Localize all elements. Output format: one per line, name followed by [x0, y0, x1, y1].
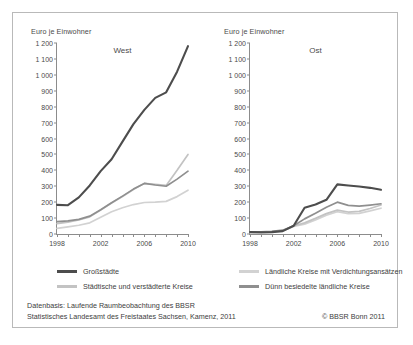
x-axis-tick-mark: [57, 234, 58, 237]
legend-item-grossstaedte: Großstädte: [57, 267, 119, 276]
x-axis-tick-mark: [101, 234, 102, 237]
y-axis-tick-label: 400: [41, 167, 53, 174]
y-axis-tick-label: 300: [234, 183, 246, 190]
legend-item-duenn-besiedelt: Dünn besiedelte ländliche Kreise: [239, 282, 370, 291]
y-axis-tick-label: 900: [41, 87, 53, 94]
x-axis-tick-mark: [90, 234, 91, 237]
y-axis-tick-label: 500: [234, 151, 246, 158]
data-series-line: [57, 154, 188, 223]
y-axis-tick-label: 800: [234, 103, 246, 110]
x-axis-tick-mark: [261, 234, 262, 237]
chart-panel-west: Euro je Einwohner West 01002003004005006…: [13, 13, 206, 263]
legend-item-staedtische: Städtische und verstädterte Kreise: [57, 282, 193, 291]
y-axis-tick-label: 600: [234, 135, 246, 142]
x-axis-tick-mark: [359, 234, 360, 237]
data-series-line: [250, 184, 381, 232]
x-axis-tick-label: 2010: [373, 240, 389, 247]
data-series-line: [57, 171, 188, 221]
x-axis-tick-mark: [79, 234, 80, 237]
y-axis-tick-label: 800: [41, 103, 53, 110]
y-axis-tick-label: 0: [242, 231, 246, 238]
source-line-2-text: Statistisches Landesamt des Freistaates …: [27, 312, 236, 321]
x-axis-tick-mark: [348, 234, 349, 237]
y-axis-tick-label: 600: [41, 135, 53, 142]
x-axis-tick-mark: [370, 234, 371, 237]
x-axis-tick-label: 2002: [93, 240, 109, 247]
x-axis-tick-mark: [305, 234, 306, 237]
source-note: Datenbasis: Laufende Raumbeobachtung des…: [27, 301, 385, 322]
y-axis-tick-label: 100: [234, 215, 246, 222]
y-axis-tick-label: 1 200: [228, 40, 246, 47]
y-axis-tick-label: 200: [234, 199, 246, 206]
x-axis-tick-mark: [188, 234, 189, 237]
y-axis-tick-label: 0: [49, 231, 53, 238]
y-axis-tick-label: 200: [41, 199, 53, 206]
x-axis-tick-mark: [68, 234, 69, 237]
x-axis-tick-label: 2010: [180, 240, 196, 247]
copyright-note: © BBSR Bonn 2011: [322, 312, 385, 323]
legend-label-laendliche-verdichtung: Ländliche Kreise mit Verdichtungsansätze…: [265, 267, 402, 276]
legend-item-laendliche-verdichtung: Ländliche Kreise mit Verdichtungsansätze…: [239, 267, 402, 276]
legend-swatch-staedtische: [57, 285, 77, 288]
chart-legend: Großstädte Ländliche Kreise mit Verdicht…: [13, 265, 397, 297]
x-axis-tick-label: 1998: [49, 240, 65, 247]
y-axis-tick-label: 1 100: [228, 55, 246, 62]
y-axis-tick-label: 400: [234, 167, 246, 174]
y-axis-tick-label: 1 200: [35, 40, 53, 47]
y-axis-tick-label: 1 000: [35, 71, 53, 78]
legend-label-grossstaedte: Großstädte: [83, 267, 119, 276]
y-axis-tick-label: 1 100: [35, 55, 53, 62]
x-axis-tick-mark: [283, 234, 284, 237]
x-axis-tick-mark: [381, 234, 382, 237]
y-axis-tick-label: 100: [41, 215, 53, 222]
plot-area-west: 01002003004005006007008009001 0001 1001 …: [57, 43, 188, 234]
plot-area-ost: 01002003004005006007008009001 0001 1001 …: [250, 43, 381, 234]
data-series-line: [250, 205, 381, 232]
legend-swatch-duenn-besiedelt: [239, 285, 259, 288]
legend-swatch-grossstaedte: [57, 270, 77, 273]
x-axis-tick-mark: [144, 234, 145, 237]
x-axis-tick-mark: [133, 234, 134, 237]
x-axis-tick-label: 2002: [286, 240, 302, 247]
x-axis-tick-mark: [166, 234, 167, 237]
data-series-line: [250, 208, 381, 232]
x-axis-tick-mark: [155, 234, 156, 237]
x-axis-tick-mark: [272, 234, 273, 237]
x-axis-tick-label: 2006: [137, 240, 153, 247]
legend-label-staedtische: Städtische und verstädterte Kreise: [83, 282, 193, 291]
series-layer: [57, 43, 188, 234]
y-axis-tick-label: 1 000: [228, 71, 246, 78]
series-layer: [250, 43, 381, 234]
y-axis-tick-label: 500: [41, 151, 53, 158]
x-axis-tick-label: 1998: [242, 240, 258, 247]
y-axis-title-ost: Euro je Einwohner: [224, 27, 284, 36]
x-axis-tick-mark: [326, 234, 327, 237]
legend-label-duenn-besiedelt: Dünn besiedelte ländliche Kreise: [265, 282, 370, 291]
y-axis-tick-label: 900: [234, 87, 246, 94]
source-line-2: Statistisches Landesamt des Freistaates …: [27, 312, 385, 323]
y-axis-tick-label: 300: [41, 183, 53, 190]
chart-panel-ost: Euro je Einwohner Ost 010020030040050060…: [206, 13, 399, 263]
x-axis-tick-mark: [294, 234, 295, 237]
x-axis-tick-mark: [337, 234, 338, 237]
x-axis-tick-label: 2006: [330, 240, 346, 247]
x-axis-tick-mark: [112, 234, 113, 237]
x-axis-tick-mark: [177, 234, 178, 237]
y-axis-title-west: Euro je Einwohner: [31, 27, 91, 36]
figure-panel: Euro je Einwohner West 01002003004005006…: [12, 12, 398, 328]
y-axis-tick-label: 700: [41, 119, 53, 126]
y-axis-tick-label: 700: [234, 119, 246, 126]
legend-swatch-laendliche-verdichtung: [239, 270, 259, 273]
x-axis-tick-mark: [123, 234, 124, 237]
x-axis-tick-mark: [316, 234, 317, 237]
source-line-1: Datenbasis: Laufende Raumbeobachtung des…: [27, 301, 385, 312]
x-axis-tick-mark: [250, 234, 251, 237]
data-series-line: [250, 202, 381, 232]
